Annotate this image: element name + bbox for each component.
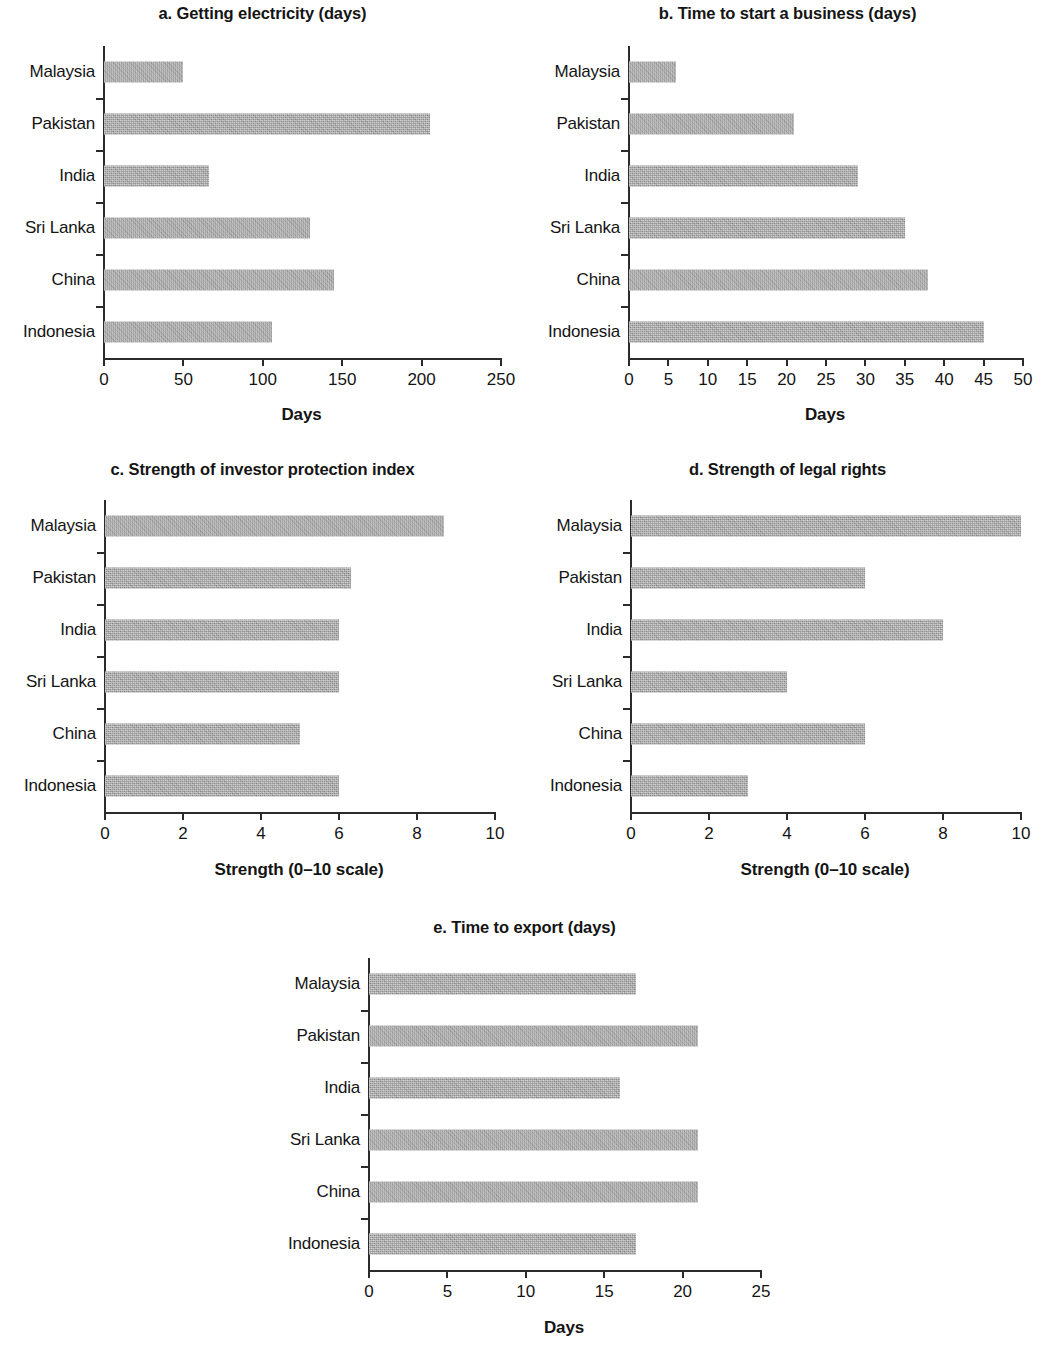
y-axis-tick-b	[621, 202, 628, 204]
y-axis-tick-b	[621, 254, 628, 256]
x-axis-tick-e	[760, 1270, 762, 1278]
category-label: China	[317, 1182, 360, 1202]
plot-area-d: MalaysiaPakistanIndiaSri LankaChinaIndon…	[525, 500, 1050, 812]
bar	[631, 516, 1021, 537]
x-axis-tick-c	[182, 812, 184, 820]
x-axis-tick-c	[338, 812, 340, 820]
category-axis-labels-e: MalaysiaPakistanIndiaSri LankaChinaIndon…	[262, 958, 368, 1270]
y-axis-tick-e	[361, 1218, 368, 1220]
x-axis-tick-label: 50	[1014, 370, 1033, 390]
category-label: Sri Lanka	[550, 218, 620, 238]
x-axis-tick-label: 30	[856, 370, 875, 390]
y-axis-tick-d	[623, 760, 630, 762]
y-axis-tick-e	[361, 1114, 368, 1116]
category-label: India	[59, 166, 95, 186]
bar	[104, 114, 430, 135]
category-label: India	[586, 620, 622, 640]
category-label: Sri Lanka	[26, 672, 96, 692]
x-axis-tick-label: 15	[738, 370, 757, 390]
category-label: India	[60, 620, 96, 640]
x-axis-tick-c	[104, 808, 106, 820]
bar	[104, 218, 310, 239]
bar	[105, 776, 339, 797]
category-label: China	[579, 724, 622, 744]
x-axis-tick-d	[708, 812, 710, 820]
plot-box-e: 0510152025	[368, 958, 760, 1270]
bar	[629, 270, 928, 291]
category-label: Malaysia	[30, 62, 95, 82]
x-axis-title-a: Days	[103, 405, 500, 425]
x-axis-tick-label: 4	[782, 824, 791, 844]
category-label: Indonesia	[23, 322, 95, 342]
category-label: China	[577, 270, 620, 290]
chart-title-b: b. Time to start a business (days)	[525, 4, 1050, 23]
x-axis-tick-a	[182, 358, 184, 366]
x-axis-tick-b	[864, 358, 866, 366]
bar	[369, 1130, 698, 1151]
category-label: Sri Lanka	[290, 1130, 360, 1150]
x-axis-tick-e	[603, 1270, 605, 1278]
bar	[629, 218, 905, 239]
x-axis-tick-c	[416, 812, 418, 820]
category-label: Sri Lanka	[552, 672, 622, 692]
chart-panel-e: e. Time to export (days) MalaysiaPakista…	[262, 900, 787, 1350]
bar	[105, 724, 300, 745]
x-axis-tick-label: 50	[174, 370, 193, 390]
x-axis-tick-b	[786, 358, 788, 366]
x-axis-tick-label: 15	[595, 1282, 614, 1302]
x-axis-tick-label: 2	[704, 824, 713, 844]
y-axis-tick-d	[623, 708, 630, 710]
plot-area-b: MalaysiaPakistanIndiaSri LankaChinaIndon…	[525, 46, 1050, 358]
y-axis-tick-d	[623, 656, 630, 658]
x-axis-tick-b	[904, 358, 906, 366]
x-axis-tick-e	[446, 1270, 448, 1278]
category-label: Malaysia	[295, 974, 360, 994]
bar	[631, 776, 748, 797]
x-axis-line-a	[103, 358, 502, 360]
category-axis-labels-d: MalaysiaPakistanIndiaSri LankaChinaIndon…	[525, 500, 630, 812]
chart-title-d: d. Strength of legal rights	[525, 460, 1050, 479]
category-axis-labels-c: MalaysiaPakistanIndiaSri LankaChinaIndon…	[0, 500, 104, 812]
y-axis-tick-c	[97, 604, 104, 606]
x-axis-tick-label: 35	[895, 370, 914, 390]
plot-area-a: MalaysiaPakistanIndiaSri LankaChinaIndon…	[0, 46, 525, 358]
bar	[104, 166, 209, 187]
y-axis-tick-a	[96, 202, 103, 204]
x-axis-tick-label: 0	[99, 370, 108, 390]
x-axis-tick-label: 8	[938, 824, 947, 844]
category-label: Indonesia	[548, 322, 620, 342]
plot-box-c: 0246810	[104, 500, 494, 812]
bar	[629, 114, 794, 135]
y-axis-tick-a	[96, 150, 103, 152]
category-label: Pakistan	[31, 114, 95, 134]
x-axis-tick-label: 10	[516, 1282, 535, 1302]
x-axis-tick-label: 8	[412, 824, 421, 844]
x-axis-tick-label: 25	[752, 1282, 771, 1302]
y-axis-tick-c	[97, 760, 104, 762]
x-axis-tick-a	[341, 358, 343, 366]
chart-title-a: a. Getting electricity (days)	[0, 4, 525, 23]
chart-panel-d: d. Strength of legal rights MalaysiaPaki…	[525, 450, 1050, 900]
x-axis-tick-a	[421, 358, 423, 366]
x-axis-line-e	[368, 1270, 762, 1272]
bar	[104, 270, 334, 291]
x-axis-tick-label: 5	[443, 1282, 452, 1302]
x-axis-tick-label: 5	[664, 370, 673, 390]
x-axis-tick-e	[368, 1266, 370, 1278]
category-label: Indonesia	[550, 776, 622, 796]
y-axis-tick-c	[97, 708, 104, 710]
chart-panel-c: c. Strength of investor protection index…	[0, 450, 525, 900]
x-axis-tick-label: 20	[777, 370, 796, 390]
x-axis-tick-label: 250	[487, 370, 515, 390]
x-axis-line-d	[630, 812, 1022, 814]
bar	[369, 1078, 620, 1099]
y-axis-tick-d	[623, 552, 630, 554]
category-label: China	[52, 270, 95, 290]
x-axis-tick-label: 40	[935, 370, 954, 390]
category-label: Pakistan	[558, 568, 622, 588]
x-axis-tick-a	[500, 358, 502, 366]
x-axis-tick-d	[864, 812, 866, 820]
x-axis-title-c: Strength (0–10 scale)	[104, 860, 494, 880]
bar	[629, 62, 676, 83]
bar	[369, 1026, 698, 1047]
